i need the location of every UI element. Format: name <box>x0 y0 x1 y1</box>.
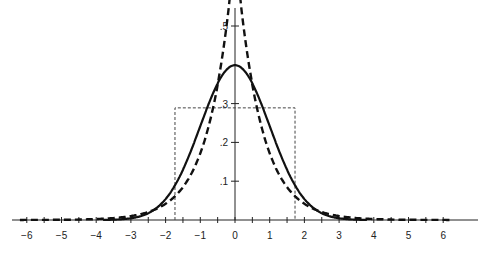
y-tick-label: .2 <box>220 137 229 148</box>
x-tick-label: −5 <box>56 230 68 241</box>
x-tick-label: 6 <box>440 230 446 241</box>
axes <box>12 8 478 220</box>
x-tick-label: −1 <box>195 230 207 241</box>
density-chart: −6−5−4−3−2−10123456.1.2.3.5 <box>0 0 494 262</box>
x-tick-label: −3 <box>125 230 137 241</box>
x-tick-label: 1 <box>267 230 273 241</box>
x-tick-label: 2 <box>302 230 308 241</box>
y-tick-label: .1 <box>220 176 229 187</box>
x-tick-label: 5 <box>406 230 412 241</box>
x-tick-label: −4 <box>90 230 102 241</box>
x-tick-label: 3 <box>336 230 342 241</box>
x-tick-label: 0 <box>232 230 238 241</box>
x-tick-label: −2 <box>160 230 172 241</box>
x-tick-label: 4 <box>371 230 377 241</box>
x-tick-label: −6 <box>21 230 33 241</box>
axis-ticks: −6−5−4−3−2−10123456.1.2.3.5 <box>21 21 446 241</box>
